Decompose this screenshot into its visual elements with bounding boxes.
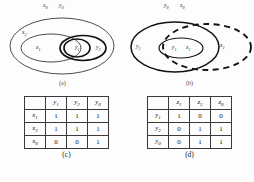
table-row-header: z1 z2 z0 — [148, 97, 232, 110]
euler-diagram-a-svg — [0, 0, 127, 92]
label-a-x2: x2 — [22, 30, 26, 37]
table-d-cell-0-1: 0 — [190, 110, 211, 123]
label-b-top-x0: x0 — [180, 3, 184, 10]
table-c-cell-1-1: 1 — [67, 123, 88, 136]
table-c-cell-0-0: 1 — [46, 110, 67, 123]
table-c-cell-0-1: 1 — [67, 110, 88, 123]
euler-diagram-a: x0 y0 x2 x1 y1 y2 (a) — [0, 0, 127, 92]
table-d-cell-0-0: 1 — [169, 110, 190, 123]
label-b-x1: x1 — [186, 45, 190, 52]
table-c-cell-2-2: 1 — [88, 136, 109, 149]
table-row: x2 1 1 1 — [25, 123, 109, 136]
table-c-row-header-0: x1 — [25, 110, 46, 123]
ellipse-inner-y1-x1 — [159, 38, 203, 58]
table-c-cell-2-1: 0 — [67, 136, 88, 149]
label-b-x2: x2 — [220, 43, 224, 50]
table-row: y1 1 0 0 — [148, 110, 232, 123]
label-a-y2: y2 — [96, 45, 100, 52]
table-c-cell-1-2: 1 — [88, 123, 109, 136]
caption-a: (a) — [59, 80, 66, 86]
table-d-cell-0-2: 0 — [211, 110, 232, 123]
table-row: x1 1 1 1 — [25, 110, 109, 123]
table-c-corner — [25, 97, 46, 110]
caption-c: (c) — [24, 150, 109, 159]
table-d-col-header-2: z0 — [211, 97, 232, 110]
table-d-col-header-1: z2 — [190, 97, 211, 110]
table-c-cell-2-0: 0 — [46, 136, 67, 149]
table-c-wrapper: y1 y2 y0 x1 1 1 1 x2 — [24, 96, 109, 159]
table-c-col-header-1: y2 — [67, 97, 88, 110]
table-d-col-header-0: z1 — [169, 97, 190, 110]
table-row: y0 0 1 1 — [148, 136, 232, 149]
label-b-top-y0: y0 — [164, 3, 168, 10]
euler-diagram-b: y0 x0 y2 y1 x1 x2 (b) — [127, 0, 254, 92]
table-c-row-header-2: x0 — [25, 136, 46, 149]
table-c-row-header-1: x2 — [25, 123, 46, 136]
table-c: y1 y2 y0 x1 1 1 1 x2 — [24, 96, 109, 149]
figure-container: x0 y0 x2 x1 y1 y2 (a) y0 — [0, 0, 254, 182]
label-b-y1: y1 — [172, 45, 176, 52]
table-c-cell-0-2: 1 — [88, 110, 109, 123]
ellipse-x1 — [21, 34, 81, 62]
label-a-top-x0: x0 — [43, 3, 47, 10]
table-d-row-header-0: y1 — [148, 110, 169, 123]
label-a-y1: y1 — [75, 45, 79, 52]
caption-b: (b) — [186, 80, 193, 86]
table-row-header: y1 y2 y0 — [25, 97, 109, 110]
table-row: x0 0 0 1 — [25, 136, 109, 149]
label-a-top-y0: y0 — [59, 3, 63, 10]
table-d-corner — [148, 97, 169, 110]
table-d-cell-1-1: 1 — [190, 123, 211, 136]
table-c-col-header-2: y0 — [88, 97, 109, 110]
table-d-cell-2-2: 1 — [211, 136, 232, 149]
table-d-row-header-2: y0 — [148, 136, 169, 149]
caption-d: (d) — [147, 150, 232, 159]
label-b-y2: y2 — [136, 44, 140, 51]
table-d-cell-2-0: 0 — [169, 136, 190, 149]
euler-diagram-b-svg — [127, 0, 254, 92]
table-d-cell-1-2: 1 — [211, 123, 232, 136]
table-c-col-header-0: y1 — [46, 97, 67, 110]
table-c-cell-1-0: 1 — [46, 123, 67, 136]
table-row: y2 0 1 1 — [148, 123, 232, 136]
table-d-cell-1-0: 0 — [169, 123, 190, 136]
table-d-cell-2-1: 1 — [190, 136, 211, 149]
table-d-row-header-1: y2 — [148, 123, 169, 136]
table-d: z1 z2 z0 y1 1 0 0 y2 — [147, 96, 232, 149]
table-d-wrapper: z1 z2 z0 y1 1 0 0 y2 — [147, 96, 232, 159]
label-a-x1: x1 — [36, 45, 40, 52]
